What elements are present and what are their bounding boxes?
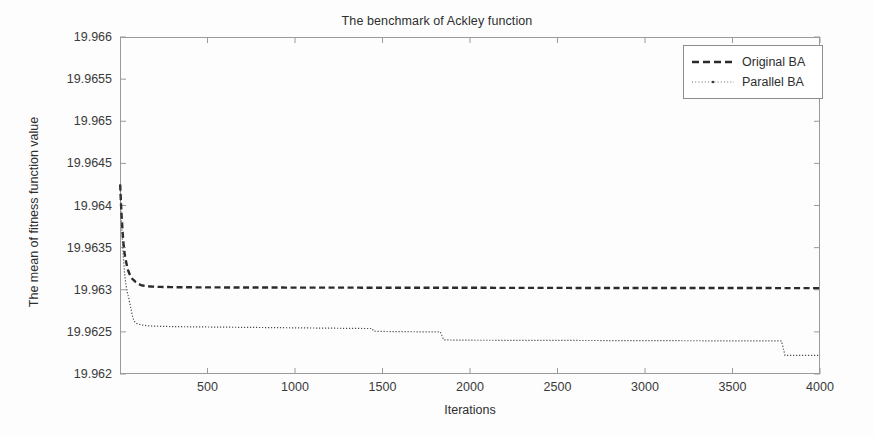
y-tick-label: 19.963 — [74, 283, 112, 297]
y-tick-label: 19.964 — [74, 199, 112, 213]
x-tick-label: 2000 — [456, 380, 484, 394]
series-line-parallel-ba — [120, 184, 820, 355]
chart-figure: The benchmark of Ackley function The mea… — [0, 0, 874, 436]
x-tick-label: 500 — [197, 380, 218, 394]
y-tick-label: 19.9625 — [67, 325, 112, 339]
y-tick-label: 19.9635 — [67, 241, 112, 255]
legend-item-original-ba[interactable]: Original BA — [690, 52, 814, 72]
legend-label-original-ba: Original BA — [736, 55, 805, 69]
chart-title: The benchmark of Ackley function — [0, 14, 874, 28]
x-tick-label: 1000 — [281, 380, 309, 394]
legend-item-parallel-ba[interactable]: Parallel BA — [690, 72, 814, 92]
legend-dotted-line-icon — [690, 76, 736, 88]
y-tick-label: 19.9645 — [67, 156, 112, 170]
x-tick-label: 1500 — [369, 380, 397, 394]
x-tick-label: 3500 — [719, 380, 747, 394]
series-line-original-ba — [120, 184, 820, 288]
chart-legend[interactable]: Original BA Parallel BA — [683, 45, 823, 99]
legend-dashed-line-icon — [690, 56, 736, 68]
y-tick-label: 19.962 — [74, 367, 112, 381]
y-tick-label: 19.9655 — [67, 72, 112, 86]
x-axis-label: Iterations — [120, 403, 820, 417]
y-axis-label: The mean of fitness function value — [27, 92, 41, 332]
x-tick-label: 3000 — [631, 380, 659, 394]
x-tick-label: 2500 — [544, 380, 572, 394]
y-tick-label: 19.965 — [74, 114, 112, 128]
y-tick-label: 19.966 — [74, 30, 112, 44]
x-tick-label: 4000 — [806, 380, 834, 394]
legend-label-parallel-ba: Parallel BA — [736, 75, 804, 89]
